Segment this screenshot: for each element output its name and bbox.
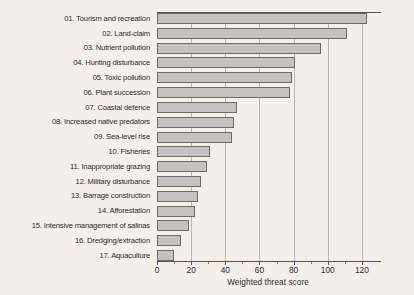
x-tick-label: 40 [221,265,230,275]
bar [157,176,201,187]
bar-row [157,250,379,261]
x-tick-minor [277,262,278,264]
x-tick-label: 60 [255,265,264,275]
bar-row [157,206,379,217]
bar-row [157,117,379,128]
bar [157,13,367,24]
category-label: 11. Inappropriate grazing [2,161,154,172]
plot-area [157,13,379,261]
x-tick-label: 100 [321,265,335,275]
bar-row [157,176,379,187]
bar-row [157,146,379,157]
bar [157,161,207,172]
bar-row [157,235,379,246]
bar [157,102,237,113]
bar [157,235,181,246]
bar-series [157,13,379,261]
bar [157,250,174,261]
x-tick-label: 0 [155,265,160,275]
bar [157,43,321,54]
x-tick-minor [345,262,346,264]
bar-row [157,72,379,83]
category-label: 13. Barrage construction [2,191,154,202]
bar-row [157,102,379,113]
bar-row [157,161,379,172]
category-label: 04. Hunting disturbance [2,57,154,68]
x-axis-tick-labels: 020406080100120 [157,265,379,277]
bar-row [157,28,379,39]
category-label: 14. Afforestation [2,206,154,217]
x-tick-label: 120 [355,265,369,275]
category-label: 16. Dredging/extraction [2,235,154,246]
category-label: 12. Military disturbance [2,176,154,187]
category-label: 09. Sea-level rise [2,132,154,143]
bar-row [157,43,379,54]
bar [157,28,347,39]
bar [157,146,210,157]
category-label: 05. Toxic pollution [2,72,154,83]
category-label: 02. Land-claim [2,28,154,39]
x-tick-minor [174,262,175,264]
bar [157,57,295,68]
x-tick-label: 80 [289,265,298,275]
category-label: 17. Aquaculture [2,250,154,261]
category-label: 08. Increased native predators [2,117,154,128]
bar-row [157,220,379,231]
bar [157,206,195,217]
category-axis-labels: 01. Tourism and recreation 02. Land-clai… [2,13,154,261]
bar [157,191,198,202]
category-label: 07. Coastal defence [2,102,154,113]
bar [157,117,234,128]
x-tick-minor [242,262,243,264]
x-axis-title: Weighted threat score [157,278,379,287]
bar [157,132,232,143]
category-label: 15. Intensive management of salinas [2,220,154,231]
category-label: 06. Plant succession [2,87,154,98]
bar [157,87,290,98]
category-label: 03. Nutrient pollution [2,43,154,54]
bar [157,220,189,231]
category-label: 01. Tourism and recreation [2,13,154,24]
category-label: 10. Fisheries [2,146,154,157]
bar-row [157,191,379,202]
bar-row [157,13,379,24]
bar-row [157,87,379,98]
x-tick-minor [208,262,209,264]
chart-figure: 01. Tourism and recreation 02. Land-clai… [0,0,414,295]
x-tick-label: 20 [186,265,195,275]
x-tick-minor [311,262,312,264]
bar [157,72,292,83]
bar-row [157,57,379,68]
bar-row [157,132,379,143]
